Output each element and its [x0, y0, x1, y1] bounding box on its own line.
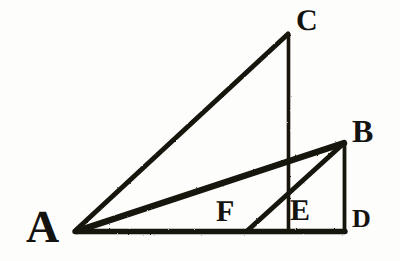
vertex-label-e: E [290, 196, 310, 226]
segment-hypotenuse-AC [76, 34, 288, 230]
vertex-label-b: B [352, 115, 373, 147]
figure-canvas [0, 0, 400, 261]
geometric-figure: A C B D E F [0, 0, 400, 261]
vertex-label-c: C [296, 6, 318, 36]
vertex-label-f: F [216, 197, 234, 227]
vertex-label-a: A [26, 204, 59, 250]
vertex-label-d: D [352, 206, 371, 232]
